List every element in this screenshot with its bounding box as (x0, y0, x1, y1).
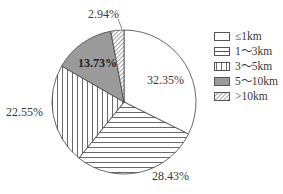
swatch-horizontal-lines (214, 47, 230, 56)
legend-item-le1km: ≤1km (214, 29, 278, 44)
slice-label-3-5km: 22.55% (6, 106, 43, 118)
slice-label-1-3km: 28.43% (152, 170, 189, 182)
legend: ≤1km 1～3km 3～5km 5～10km >10km (214, 29, 278, 104)
slice-label-le1km: 32.35% (147, 74, 184, 86)
legend-item-3-5km: 3～5km (214, 59, 278, 74)
legend-item-gt10km: >10km (214, 89, 278, 104)
legend-item-5-10km: 5～10km (214, 74, 278, 89)
swatch-vertical-lines (214, 62, 230, 71)
slice-label-5-10km: 13.73% (78, 57, 117, 69)
legend-item-1-3km: 1～3km (214, 44, 278, 59)
swatch-white (214, 32, 230, 41)
slice-label-gt10km: 2.94% (88, 8, 119, 20)
pie-slices (52, 30, 196, 174)
swatch-gray (214, 77, 230, 86)
swatch-diagonal-hatch (214, 92, 230, 101)
